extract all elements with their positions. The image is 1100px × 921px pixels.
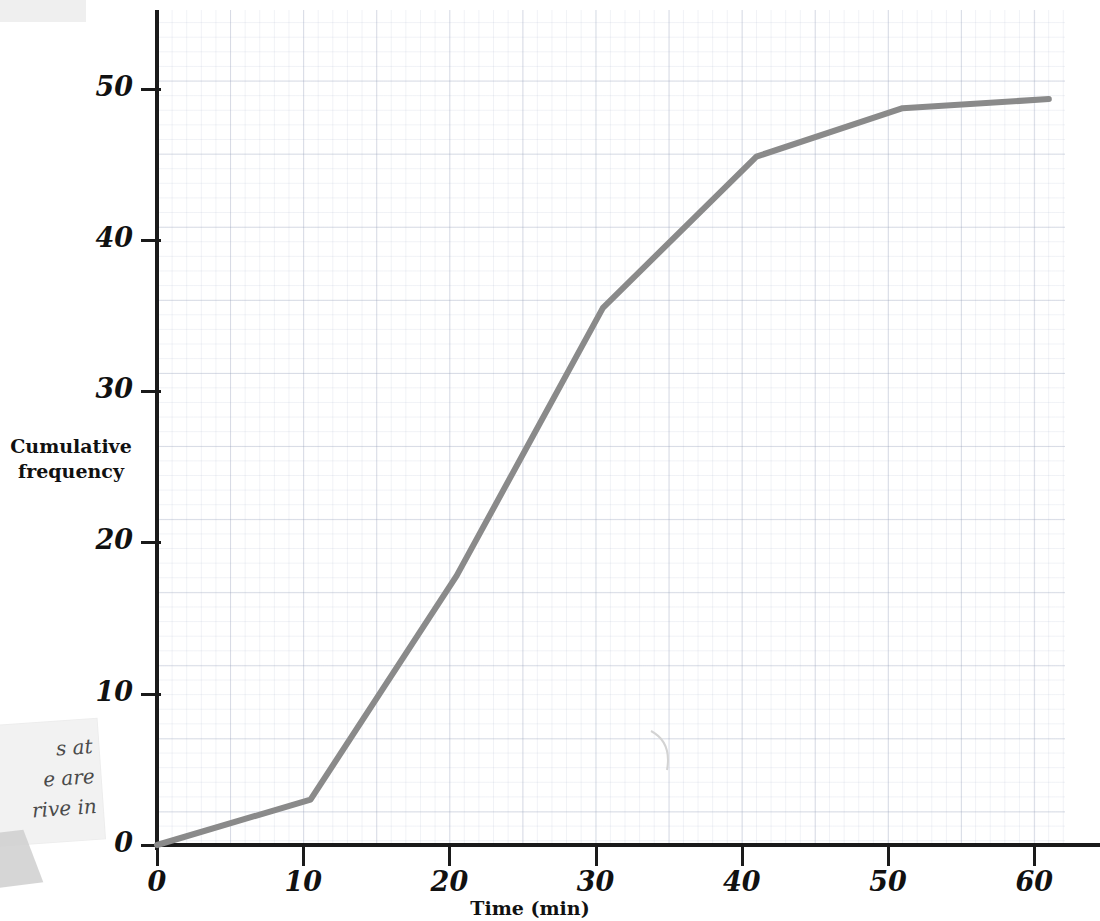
series-line-cumulative-frequency	[157, 99, 1049, 845]
chart-canvas: s at e are rive in 01020304050 010203040…	[0, 0, 1100, 921]
data-curve-layer	[0, 0, 1100, 921]
pencil-arc-mark	[651, 731, 668, 770]
